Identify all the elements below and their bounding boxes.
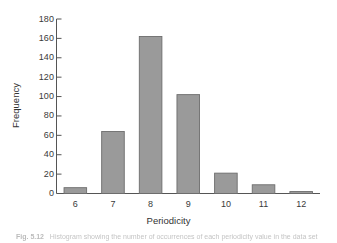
x-tick-label: 7	[110, 200, 115, 209]
figure-caption-text: Histogram showing the number of occurren…	[46, 233, 318, 240]
y-axis-title: Frequency	[10, 61, 21, 151]
x-tick-label: 6	[73, 200, 78, 209]
x-tick-label: 9	[186, 200, 191, 209]
x-tick-label: 8	[148, 200, 153, 209]
figure-caption-label: Fig. 5.12	[16, 233, 44, 240]
x-tick-label: 10	[221, 200, 231, 209]
x-axis-title: Periodicity	[0, 215, 337, 226]
figure-container: 020406080100120140160180 6789101112 Freq…	[0, 0, 337, 243]
x-tick-label: 11	[259, 200, 268, 209]
x-axis-tick-labels: 6789101112	[0, 0, 337, 243]
bar-chart: 020406080100120140160180 6789101112 Freq…	[0, 0, 337, 243]
x-tick-label: 12	[296, 200, 306, 209]
figure-caption: Fig. 5.12 Histogram showing the number o…	[0, 232, 337, 243]
